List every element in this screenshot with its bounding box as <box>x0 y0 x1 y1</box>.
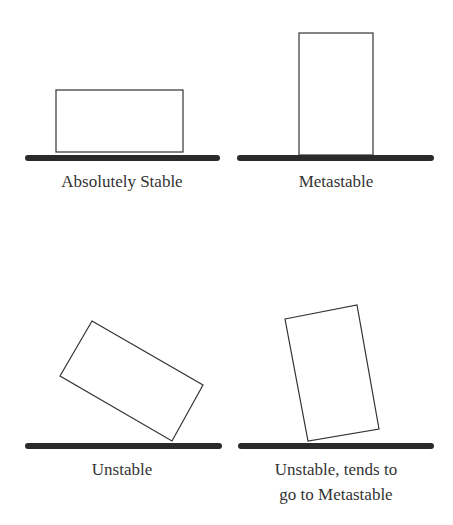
panel-absolutely-stable <box>28 90 217 158</box>
label-unstable-to-metastable-line2: go to Metastable <box>236 483 436 507</box>
label-unstable: Unstable <box>22 458 222 482</box>
block-tilted <box>60 321 203 441</box>
panel-metastable <box>240 33 431 158</box>
label-metastable: Metastable <box>236 170 436 194</box>
block-slightly-tilted <box>285 305 379 441</box>
label-unstable-to-metastable-line1: Unstable, tends to <box>236 458 436 482</box>
block-flat <box>56 90 183 152</box>
panel-unstable <box>28 321 219 446</box>
label-absolutely-stable: Absolutely Stable <box>22 170 222 194</box>
panel-unstable-to-metastable <box>241 305 431 446</box>
block-upright <box>299 33 373 155</box>
stability-diagram <box>0 0 453 525</box>
